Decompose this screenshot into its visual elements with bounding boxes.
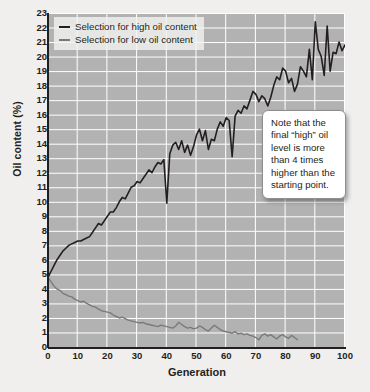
x-tick-50: 50 <box>182 350 212 361</box>
y-tick-5: 5 <box>17 269 47 279</box>
y-tick-20: 20 <box>17 52 47 62</box>
y-tick-1: 1 <box>17 327 47 337</box>
x-tick-30: 30 <box>122 350 152 361</box>
legend-swatch-icon-high <box>59 26 70 28</box>
y-axis-line <box>47 13 49 348</box>
y-tick-14: 14 <box>17 139 47 149</box>
legend-label-low: Selection for low oil content <box>75 34 193 45</box>
y-tick-6: 6 <box>17 255 47 265</box>
y-tick-4: 4 <box>17 284 47 294</box>
legend-label-high: Selection for high oil content <box>75 21 197 32</box>
x-tick-20: 20 <box>92 350 122 361</box>
y-tick-8: 8 <box>17 226 47 236</box>
y-tick-22: 22 <box>17 23 47 33</box>
x-tick-80: 80 <box>271 350 301 361</box>
x-tick-60: 60 <box>211 350 241 361</box>
y-tick-2: 2 <box>17 313 47 323</box>
x-tick-70: 70 <box>241 350 271 361</box>
note-callout: Note that the final “high” oil level is … <box>262 110 346 199</box>
y-tick-21: 21 <box>17 37 47 47</box>
x-tick-40: 40 <box>152 350 182 361</box>
x-tick-100: 100 <box>330 350 360 361</box>
oil-content-line-chart: Oil content (%) 012345678910111213141516… <box>0 0 370 392</box>
legend-item-high-oil: Selection for high oil content <box>59 21 197 32</box>
legend-swatch-icon-low <box>59 39 70 41</box>
y-tick-19: 19 <box>17 66 47 76</box>
y-tick-12: 12 <box>17 168 47 178</box>
y-tick-23: 23 <box>17 8 47 18</box>
chart-legend: Selection for high oil content Selection… <box>54 17 204 50</box>
y-tick-18: 18 <box>17 81 47 91</box>
x-axis-title: Generation <box>48 366 346 378</box>
x-tick-10: 10 <box>63 350 93 361</box>
y-tick-9: 9 <box>17 211 47 221</box>
y-tick-3: 3 <box>17 298 47 308</box>
series-line-low-oil <box>48 277 297 339</box>
x-tick-0: 0 <box>33 350 63 361</box>
x-tick-90: 90 <box>300 350 330 361</box>
y-tick-10: 10 <box>17 197 47 207</box>
y-tick-17: 17 <box>17 95 47 105</box>
y-tick-16: 16 <box>17 110 47 120</box>
y-tick-15: 15 <box>17 124 47 134</box>
y-tick-7: 7 <box>17 240 47 250</box>
y-tick-11: 11 <box>17 182 47 192</box>
legend-item-low-oil: Selection for low oil content <box>59 34 197 45</box>
y-tick-13: 13 <box>17 153 47 163</box>
x-axis-line <box>48 347 346 349</box>
